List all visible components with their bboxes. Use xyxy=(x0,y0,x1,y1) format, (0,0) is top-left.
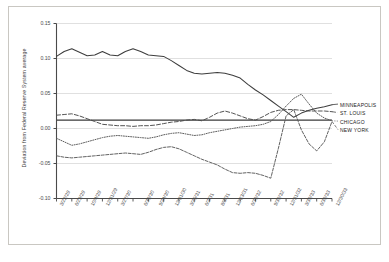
y-axis-tick-label: 0.10 xyxy=(31,55,51,61)
legend-leader-line xyxy=(332,104,338,105)
y-axis-tick-label: -0.05 xyxy=(31,160,51,166)
legend-leader-line xyxy=(332,122,338,130)
legend-label-st-louis: ST. LOUIS xyxy=(340,110,365,116)
y-axis-tick-label: 0.00 xyxy=(31,125,51,131)
chart-figure: Deviation from Federal Reserve System av… xyxy=(0,0,389,262)
chart-plot xyxy=(0,0,389,262)
legend-label-new-york: NEW YORK xyxy=(340,127,369,133)
series-line-minneapolis xyxy=(57,49,333,118)
legend-label-chicago: CHICAGO xyxy=(340,119,365,125)
y-axis-tick-label: 0.05 xyxy=(31,90,51,96)
legend-leader-line xyxy=(332,112,338,113)
y-axis-tick-label: 0.15 xyxy=(31,20,51,26)
y-axis-tick-label: -0.10 xyxy=(31,195,51,201)
legend-label-minneapolis: MINNEAPOLIS xyxy=(340,102,376,108)
